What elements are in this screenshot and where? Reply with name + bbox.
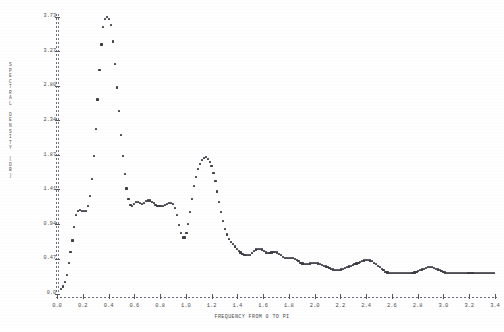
data-point (226, 233, 228, 235)
x-axis-tick-mark (186, 294, 187, 299)
data-point (216, 190, 218, 192)
data-point (124, 173, 126, 175)
data-points-layer (0, 0, 504, 332)
data-point (102, 26, 104, 28)
y-axis-tick-mark (55, 155, 60, 156)
x-axis-tick-mark (366, 294, 367, 299)
data-point (220, 211, 222, 213)
spectral-density-plot: SPECTRAL DENSITY (DB) 3.733.272.802.341.… (0, 0, 504, 332)
data-point (71, 239, 73, 241)
data-point (133, 203, 135, 205)
data-point (197, 168, 199, 170)
data-point (191, 198, 193, 200)
y-axis-tick-mark (55, 224, 60, 225)
data-point (100, 43, 102, 45)
data-point (95, 128, 97, 130)
data-point (199, 163, 201, 165)
data-point (118, 110, 120, 112)
data-point (189, 211, 191, 213)
y-axis-tick-mark (55, 259, 60, 260)
data-point (89, 195, 91, 197)
data-point (122, 155, 124, 157)
data-point (195, 176, 197, 178)
data-point (85, 210, 87, 212)
x-axis-tick-mark (315, 294, 316, 299)
y-axis-tick-mark (55, 51, 60, 52)
data-point (73, 226, 75, 228)
data-point (87, 205, 89, 207)
x-axis-tick-mark (263, 294, 264, 299)
data-point (187, 223, 189, 225)
data-point (222, 220, 224, 222)
data-point (214, 180, 216, 182)
x-axis-tick-mark (418, 294, 419, 299)
data-point (104, 18, 106, 20)
data-point (176, 214, 178, 216)
data-point (209, 161, 211, 163)
x-axis-tick-mark (109, 294, 110, 299)
data-point (91, 178, 93, 180)
data-point (493, 272, 495, 274)
data-point (64, 281, 66, 283)
x-axis-tick-mark (289, 294, 290, 299)
data-point (183, 236, 185, 238)
data-point (93, 155, 95, 157)
data-point (66, 274, 68, 276)
x-axis-tick-mark (83, 294, 84, 299)
y-axis-tick-mark (55, 120, 60, 121)
data-point (96, 98, 98, 100)
data-point (207, 158, 209, 160)
y-axis-tick-mark (55, 17, 60, 18)
data-point (228, 238, 230, 240)
x-axis-tick-mark (392, 294, 393, 299)
data-point (116, 86, 118, 88)
data-point (212, 172, 214, 174)
y-axis-tick-mark (55, 189, 60, 190)
data-point (201, 159, 203, 161)
data-point (68, 262, 70, 264)
data-point (98, 69, 100, 71)
data-point (110, 24, 112, 26)
data-point (193, 185, 195, 187)
data-point (131, 205, 133, 207)
data-point (143, 202, 145, 204)
x-axis-tick-mark (495, 294, 496, 299)
x-axis-tick-mark (469, 294, 470, 299)
x-axis-title: FREQUENCY FROM 0 TO PI (0, 314, 504, 320)
data-point (174, 207, 176, 209)
data-point (185, 232, 187, 234)
data-point (224, 228, 226, 230)
data-point (180, 232, 182, 234)
x-axis-tick-mark (160, 294, 161, 299)
y-axis-tick-mark (55, 86, 60, 87)
data-point (108, 18, 110, 20)
data-point (178, 224, 180, 226)
x-axis-tick-mark (134, 294, 135, 299)
data-point (127, 198, 129, 200)
data-point (120, 134, 122, 136)
x-axis-tick-mark (57, 294, 58, 299)
data-point (251, 252, 253, 254)
data-point (114, 63, 116, 65)
data-point (62, 285, 64, 287)
data-point (69, 251, 71, 253)
data-point (172, 203, 174, 205)
data-point (210, 165, 212, 167)
x-axis-tick-mark (237, 294, 238, 299)
x-axis-tick-mark (212, 294, 213, 299)
data-point (60, 288, 62, 290)
x-axis-tick-mark (340, 294, 341, 299)
data-point (218, 201, 220, 203)
data-point (112, 40, 114, 42)
data-point (75, 214, 77, 216)
x-axis-tick-mark (443, 294, 444, 299)
data-point (125, 187, 127, 189)
